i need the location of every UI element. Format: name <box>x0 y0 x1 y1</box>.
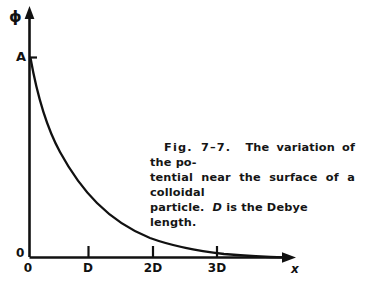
caption-line-2: tential near the surface of a colloidal <box>150 171 355 201</box>
caption-line-3: particle. D is the Debye length. <box>150 201 355 231</box>
amplitude-label-A: A <box>16 50 26 63</box>
x-tick-label-D: D <box>79 262 97 274</box>
x-axis-label-x: x <box>291 263 299 275</box>
x-tick-label-0: 0 <box>19 262 37 274</box>
caption-figure-number: Fig. 7–7. <box>164 141 231 154</box>
x-tick-label-3D: 3D <box>204 262 230 274</box>
figure-caption: Fig. 7–7. The variation of the po- tenti… <box>150 141 355 230</box>
y-axis-label-phi: ϕ <box>9 9 22 25</box>
caption-text-3a: particle. <box>150 201 204 214</box>
caption-symbol-D: D <box>213 201 223 214</box>
figure-container: ϕ A x 0 0 D 2D 3D Fig. 7–7. The variatio… <box>0 0 380 293</box>
x-tick-label-2D: 2D <box>140 262 166 274</box>
y-axis-arrowhead <box>25 6 35 19</box>
caption-line-1: Fig. 7–7. The variation of the po- <box>150 141 355 171</box>
y-axis-origin-label: 0 <box>16 247 24 259</box>
